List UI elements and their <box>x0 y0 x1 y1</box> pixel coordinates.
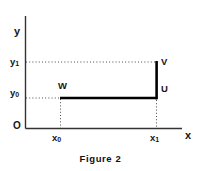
tick-label-y1: y1 <box>10 57 19 67</box>
point-label-w: W <box>58 81 67 91</box>
point-label-v: V <box>161 57 167 67</box>
tick-label-y0: y0 <box>10 88 19 98</box>
y-axis-label: y <box>14 26 20 37</box>
figure-container: y x O y1 y0 x0 x1 W V U Figure 2 <box>0 0 201 171</box>
tick-label-x1-subscript: 1 <box>155 136 159 143</box>
tick-label-x0-subscript: 0 <box>57 136 61 143</box>
x-axis-label: x <box>185 130 191 141</box>
point-label-u: U <box>161 84 168 94</box>
tick-label-x0: x0 <box>52 133 61 143</box>
origin-label: O <box>13 121 21 131</box>
tick-label-x1: x1 <box>150 133 159 143</box>
tick-label-y1-subscript: 1 <box>15 60 19 67</box>
plot-canvas <box>0 0 201 171</box>
tick-label-y0-subscript: 0 <box>15 91 19 98</box>
figure-caption: Figure 2 <box>0 153 201 164</box>
